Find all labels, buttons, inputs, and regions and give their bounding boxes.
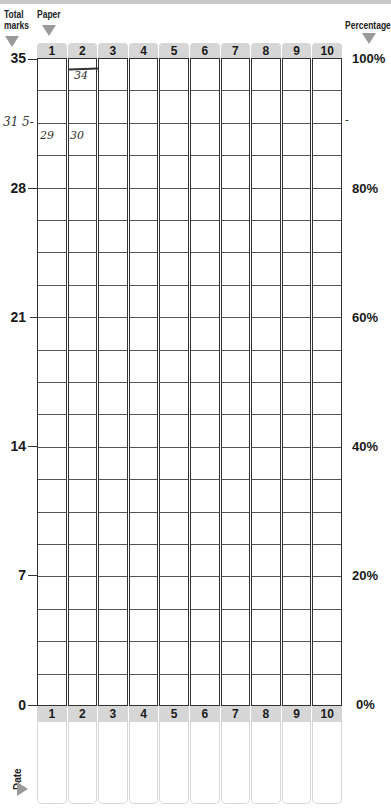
row-line [313, 90, 341, 91]
paper-footer-2: 2 [68, 706, 98, 722]
row-line [160, 674, 188, 675]
row-line [38, 350, 66, 351]
paper-header-6: 6 [190, 43, 220, 58]
paper-column-8[interactable] [251, 58, 281, 706]
row-line [99, 252, 127, 253]
row-line [69, 123, 97, 124]
date-field-5[interactable] [159, 722, 189, 804]
row-line [191, 317, 219, 318]
date-field-1[interactable] [37, 722, 67, 804]
row-line [313, 414, 341, 415]
row-line [283, 317, 311, 318]
row-line [38, 123, 66, 124]
paper-header-10: 10 [312, 43, 342, 58]
paper-column-9[interactable] [282, 58, 312, 706]
row-line [252, 447, 280, 448]
row-line [99, 350, 127, 351]
row-line [99, 188, 127, 189]
row-line [191, 544, 219, 545]
row-line [283, 285, 311, 286]
row-line [222, 382, 250, 383]
top-edge-strip [0, 0, 391, 4]
paper-column-5[interactable] [159, 58, 189, 706]
row-line [160, 414, 188, 415]
row-line [38, 220, 66, 221]
row-line [38, 90, 66, 91]
date-field-10[interactable] [312, 722, 342, 804]
row-line [38, 317, 66, 318]
row-line [69, 155, 97, 156]
row-line [252, 512, 280, 513]
row-line [222, 414, 250, 415]
date-field-6[interactable] [190, 722, 220, 804]
tick-left-7 [28, 575, 37, 576]
date-field-9[interactable] [282, 722, 312, 804]
row-line [69, 317, 97, 318]
row-line [313, 155, 341, 156]
row-line [222, 674, 250, 675]
row-line [313, 447, 341, 448]
row-line [313, 252, 341, 253]
row-line [222, 123, 250, 124]
paper-column-3[interactable] [98, 58, 128, 706]
row-line [130, 576, 158, 577]
row-line [38, 576, 66, 577]
paper-header-9: 9 [282, 43, 312, 58]
row-line [283, 544, 311, 545]
row-line [38, 155, 66, 156]
row-line [160, 576, 188, 577]
date-field-8[interactable] [251, 722, 281, 804]
row-line [313, 674, 341, 675]
axis-right-0: 0% [356, 697, 375, 712]
row-line [222, 350, 250, 351]
row-line [130, 544, 158, 545]
paper-header-3: 3 [98, 43, 128, 58]
row-line [313, 382, 341, 383]
date-field-4[interactable] [129, 722, 159, 804]
row-line [130, 317, 158, 318]
row-line [130, 609, 158, 610]
paper-column-10[interactable] [312, 58, 342, 706]
paper-header-4: 4 [129, 43, 159, 58]
row-line [283, 155, 311, 156]
row-line [69, 252, 97, 253]
row-line [283, 447, 311, 448]
paper-footer-6: 6 [190, 706, 220, 722]
row-line [130, 155, 158, 156]
row-line [160, 90, 188, 91]
axis-right-20: 20% [352, 568, 378, 583]
row-line [252, 414, 280, 415]
paper-header-7: 7 [221, 43, 251, 58]
row-line [38, 188, 66, 189]
date-field-2[interactable] [68, 722, 98, 804]
row-line [69, 220, 97, 221]
paper-column-4[interactable] [129, 58, 159, 706]
row-line [191, 512, 219, 513]
row-line [252, 674, 280, 675]
paper-column-7[interactable] [221, 58, 251, 706]
row-line [99, 544, 127, 545]
paper-footer-4: 4 [129, 706, 159, 722]
row-line [130, 123, 158, 124]
date-field-3[interactable] [98, 722, 128, 804]
row-line [283, 609, 311, 610]
paper-column-6[interactable] [190, 58, 220, 706]
row-line [99, 123, 127, 124]
row-line [160, 123, 188, 124]
row-line [38, 544, 66, 545]
row-line [283, 188, 311, 189]
row-line [283, 220, 311, 221]
row-line [191, 479, 219, 480]
paper-label: Paper [37, 9, 61, 20]
row-line [69, 90, 97, 91]
paper-column-1[interactable] [37, 58, 67, 706]
row-line [130, 350, 158, 351]
paper-footer-8: 8 [251, 706, 281, 722]
row-line [99, 382, 127, 383]
tick-left-35 [28, 59, 37, 60]
row-line [313, 641, 341, 642]
row-line [130, 252, 158, 253]
row-line [130, 285, 158, 286]
date-field-7[interactable] [221, 722, 251, 804]
paper-column-2[interactable] [68, 58, 98, 706]
